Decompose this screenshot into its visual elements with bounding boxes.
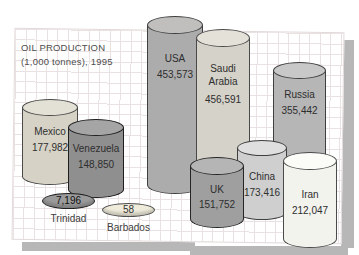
country-value: 355,442 — [273, 104, 326, 117]
country-value: 7,196 — [43, 194, 94, 207]
disc-barbados: 58 — [102, 203, 155, 217]
country-name: Russia — [273, 88, 326, 101]
country-name: Arabia — [196, 75, 250, 88]
cylinder-label-venezuela: Venezuela148,850 — [68, 142, 124, 171]
oil-production-chart: OIL PRODUCTION (1,000 tonnes), 1995 Russ… — [0, 0, 359, 255]
country-value: 148,850 — [68, 158, 124, 171]
country-name: Venezuela — [68, 142, 124, 155]
disc-trinidad: 7,196 — [42, 193, 95, 209]
cylinder-label-russia: Russia355,442 — [273, 88, 326, 117]
cylinder-top-iran — [283, 152, 337, 170]
cylinder-top-mexico — [22, 99, 78, 116]
country-value: 151,752 — [190, 198, 244, 211]
country-value: 453,573 — [147, 68, 203, 81]
chart-title-line1: OIL PRODUCTION — [21, 41, 161, 55]
cylinder-label-usa: USA453,573 — [147, 52, 203, 81]
chart-title: OIL PRODUCTION (1,000 tonnes), 1995 — [21, 41, 161, 68]
cylinder-label-china: China173,416 — [237, 170, 287, 199]
cylinder-top-usa — [147, 16, 203, 34]
drop-shadow-bottom-left — [22, 242, 195, 251]
country-name: USA — [147, 52, 203, 65]
country-name: Iran — [283, 188, 337, 201]
cylinder-top-russia — [273, 62, 326, 79]
cylinder-top-saudi-arabia — [196, 29, 250, 47]
country-value: 212,047 — [283, 204, 337, 217]
cylinder-label-saudi-arabia: SaudiArabia456,591 — [196, 62, 250, 106]
country-name-barbados: Barbados — [89, 222, 169, 233]
drop-shadow-bottom-right — [190, 246, 348, 255]
country-name: UK — [190, 183, 244, 196]
cylinder-label-iran: Iran212,047 — [283, 188, 337, 217]
country-value: 456,591 — [196, 93, 250, 106]
country-value: 58 — [103, 204, 154, 215]
cylinder-label-uk: UK151,752 — [190, 183, 244, 211]
cylinder-top-uk — [190, 157, 244, 175]
country-value: 173,416 — [237, 186, 287, 199]
chart-title-line2: (1,000 tonnes), 1995 — [21, 55, 161, 69]
country-name: Mexico — [22, 125, 78, 138]
cylinder-top-china — [237, 140, 287, 156]
country-name: Saudi — [196, 62, 250, 75]
country-name: China — [237, 170, 287, 183]
